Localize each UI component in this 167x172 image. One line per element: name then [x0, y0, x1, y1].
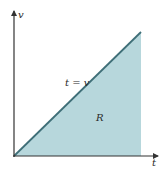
horizontal-axis-label: t: [152, 157, 157, 168]
region-label: R: [95, 112, 104, 123]
vertical-axis-label: v: [18, 9, 24, 20]
line-equation-label: t = v: [65, 77, 90, 88]
region-diagram: v t t = v R: [0, 0, 167, 172]
